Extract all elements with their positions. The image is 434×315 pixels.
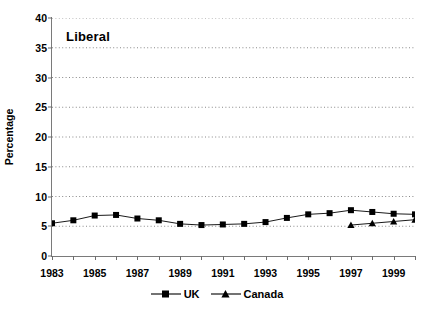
data-point-uk [134, 216, 140, 222]
data-point-uk [220, 221, 226, 227]
x-tick-label: 1999 [382, 268, 405, 279]
legend-marker-square [151, 288, 181, 300]
y-tick-mark [48, 137, 52, 138]
series-canvas [52, 18, 415, 256]
x-tick-mark [223, 256, 224, 260]
legend-item-canada: Canada [211, 288, 284, 300]
x-tick-label: 1997 [339, 268, 362, 279]
legend-item-uk: UK [151, 288, 200, 300]
x-tick-mark [287, 256, 288, 260]
x-tick-mark [52, 256, 53, 260]
x-tick-label: 1985 [83, 268, 106, 279]
chart-legend: UK Canada [0, 288, 434, 300]
data-point-uk [198, 222, 204, 228]
y-tick-label: 25 [35, 102, 47, 113]
y-tick-label: 5 [41, 221, 47, 232]
y-tick-label: 40 [35, 13, 47, 24]
x-tick-mark [330, 256, 331, 260]
data-point-uk [369, 209, 375, 215]
x-tick-mark [180, 256, 181, 260]
data-point-uk [241, 221, 247, 227]
y-tick-label: 10 [35, 191, 47, 202]
data-point-uk [70, 217, 76, 223]
x-tick-mark [201, 256, 202, 260]
x-tick-mark [308, 256, 309, 260]
x-tick-mark [266, 256, 267, 260]
x-tick-mark [95, 256, 96, 260]
data-point-uk [327, 210, 333, 216]
y-tick-label: 0 [41, 251, 47, 262]
series-line-uk [52, 210, 415, 225]
data-point-uk [305, 211, 311, 217]
x-tick-label: 1995 [297, 268, 320, 279]
data-point-uk [348, 207, 354, 213]
x-tick-label: 1989 [168, 268, 191, 279]
x-tick-mark [372, 256, 373, 260]
y-tick-label: 35 [35, 43, 47, 54]
x-tick-mark [351, 256, 352, 260]
data-point-uk [156, 217, 162, 223]
x-tick-label: 1991 [211, 268, 234, 279]
y-tick-mark [48, 47, 52, 48]
legend-label-canada: Canada [244, 289, 284, 300]
data-point-uk [391, 211, 397, 217]
y-tick-label: 15 [35, 162, 47, 173]
x-tick-mark [73, 256, 74, 260]
data-point-uk [52, 220, 55, 226]
y-tick-mark [48, 226, 52, 227]
data-point-uk [284, 215, 290, 221]
chart-figure: Percentage Liberal 051015202530354019831… [0, 0, 434, 315]
plot-area: Liberal 05101520253035401983198519871989… [52, 18, 415, 256]
x-tick-mark [137, 256, 138, 260]
y-tick-mark [48, 107, 52, 108]
x-tick-label: 1987 [126, 268, 149, 279]
data-point-uk [263, 219, 269, 225]
x-tick-mark [116, 256, 117, 260]
y-tick-mark [48, 166, 52, 167]
data-point-uk [113, 212, 119, 218]
series-line-canada [351, 220, 415, 225]
x-tick-label: 1983 [40, 268, 63, 279]
y-tick-mark [48, 196, 52, 197]
data-point-uk [92, 213, 98, 219]
legend-label-uk: UK [184, 289, 200, 300]
data-point-uk [177, 221, 183, 227]
y-tick-mark [48, 18, 52, 19]
y-axis-title: Percentage [3, 109, 15, 166]
x-tick-mark [244, 256, 245, 260]
y-tick-mark [48, 77, 52, 78]
y-tick-label: 30 [35, 72, 47, 83]
legend-marker-triangle [211, 288, 241, 300]
data-point-uk [412, 211, 415, 217]
x-tick-mark [394, 256, 395, 260]
x-tick-mark [159, 256, 160, 260]
y-tick-label: 20 [35, 132, 47, 143]
x-axis-line [51, 256, 416, 257]
x-tick-label: 1993 [254, 268, 277, 279]
x-tick-mark [415, 256, 416, 260]
